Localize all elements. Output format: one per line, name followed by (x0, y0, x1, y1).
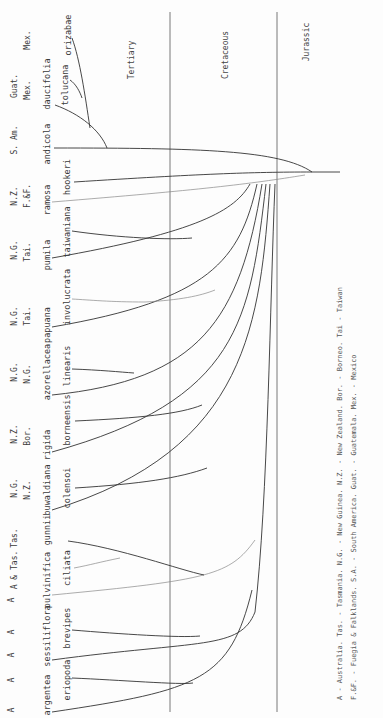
taxon-labels: orizabae tolucana daucifolia andicola ho… (42, 15, 73, 716)
region-label: N.G. (10, 240, 19, 259)
region-label: N.Z. (10, 424, 19, 443)
branch-taiwaniana (72, 231, 192, 239)
taxon-ramosa: ramosa (42, 185, 52, 216)
taxon-brevipes: brevipes (62, 608, 72, 649)
legend-line-2: F.&F. - Fuegia & Falklands. S.A. - South… (350, 354, 358, 700)
taxon-borneensis: borneensis (62, 394, 72, 445)
branch-borneensis (75, 405, 202, 421)
branch-papuana (52, 184, 257, 327)
region-label: N.Z. (23, 480, 32, 499)
branch-linearis (72, 369, 134, 373)
taxon-sessiliflora: sessiliflora (42, 605, 52, 666)
branch-andicola (54, 148, 312, 172)
taxon-rigida: rigida (42, 430, 52, 461)
region-label: A (7, 707, 16, 712)
branch-ramosa (52, 175, 305, 202)
branch-pumila (52, 184, 250, 258)
branch-brevipes (72, 630, 200, 637)
region-label: Tai. (23, 306, 32, 325)
branch-daucifolia (55, 105, 107, 148)
branch-involucrata (72, 290, 215, 302)
taxon-linearis: linearis (62, 346, 72, 387)
taxon-pulvinifica: pulvinifica (42, 552, 52, 608)
branch-azorellacea (52, 184, 262, 395)
period-jurassic: Jurassic (302, 23, 311, 62)
branch-ciliata (74, 558, 120, 568)
region-label: A (7, 629, 16, 634)
region-label: F.&F. (23, 184, 32, 208)
region-label: Mex. (23, 30, 32, 49)
period-tertiary: Tertiary (127, 41, 136, 80)
taxon-ciliata: ciliata (62, 550, 72, 586)
taxon-eriopoda: eriopoda (62, 660, 72, 701)
taxon-involucrata: involucrata (62, 269, 72, 325)
branch-pulvinifica (52, 540, 255, 595)
branch-rigida (52, 184, 266, 452)
taxon-papuana: papuana (42, 307, 52, 343)
region-label: Bor. (23, 426, 32, 445)
region-label: Tai. (23, 242, 32, 261)
region-label: Guat. (10, 74, 19, 98)
taxon-hookeri: hookeri (62, 159, 72, 195)
taxon-buwaldiana: buwaldiana (42, 464, 52, 515)
branch-colensoi (75, 468, 207, 488)
taxon-pumila: pumila (42, 240, 52, 271)
region-labels: Mex. Guat. Mex. S. Am. N.Z. F.&F. N.G. T… (7, 30, 32, 712)
branch-tolucana (70, 80, 82, 98)
branch-gunnii (68, 541, 204, 575)
region-label: S. Am. (10, 126, 19, 155)
taxon-tolucana: tolucana (60, 65, 70, 106)
region-label: A (7, 597, 16, 602)
region-label: Tas. (10, 528, 19, 547)
branch-australian-stem (255, 184, 275, 612)
taxon-argentea: argentea (42, 675, 52, 716)
period-cretaceous: Cretaceous (221, 31, 230, 79)
taxon-azorellacea: azorellacea (42, 344, 52, 400)
region-label: Mex. (23, 80, 32, 99)
taxon-orizabae: orizabae (63, 15, 73, 56)
region-label: N.Z. (10, 186, 19, 205)
branch-argentea (52, 590, 252, 712)
branch-eriopoda (72, 678, 193, 683)
region-label: N.G. (23, 364, 32, 383)
phylogeny-figure: Tertiary Cretaceous Jurassic orizabae to… (0, 0, 383, 718)
region-label: N.G. (10, 306, 19, 325)
taxon-taiwaniana: taiwaniana (62, 206, 72, 257)
region-label: N.G. (10, 478, 19, 497)
taxon-gunnii: gunnii (42, 515, 52, 546)
branch-hookeri (74, 172, 312, 182)
region-label: N.G. (10, 362, 19, 381)
taxon-colensoi: colensoi (62, 468, 72, 509)
phylogeny-svg: Tertiary Cretaceous Jurassic orizabae to… (0, 0, 383, 718)
region-label: A (7, 652, 16, 657)
taxon-andicola: andicola (42, 124, 52, 165)
taxon-daucifolia: daucifolia (42, 58, 52, 109)
region-label: A (7, 677, 16, 682)
region-label: A & Tas. (10, 551, 19, 590)
legend-line-1: A - Australia. Tas. - Tasmania. N.G. - N… (336, 287, 344, 700)
